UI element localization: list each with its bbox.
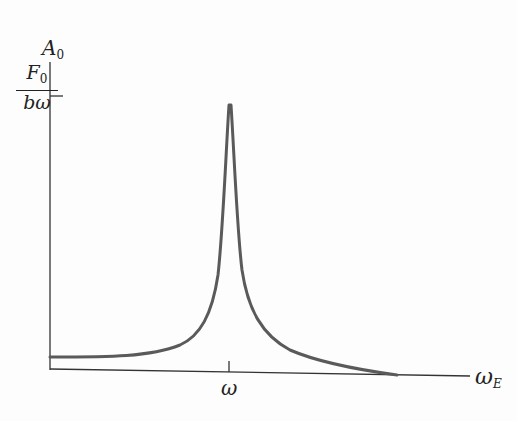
x-axis-label: ωE xyxy=(475,364,502,391)
y-tick-label: F0 bω xyxy=(16,62,58,113)
resonance-curve xyxy=(50,105,397,375)
diagram-canvas xyxy=(0,0,517,421)
x-axis xyxy=(50,369,470,376)
resonance-diagram: A0 F0 bω ω ωE xyxy=(0,0,517,421)
y-axis-label: A0 xyxy=(42,36,64,62)
x-tick-label: ω xyxy=(221,376,237,400)
